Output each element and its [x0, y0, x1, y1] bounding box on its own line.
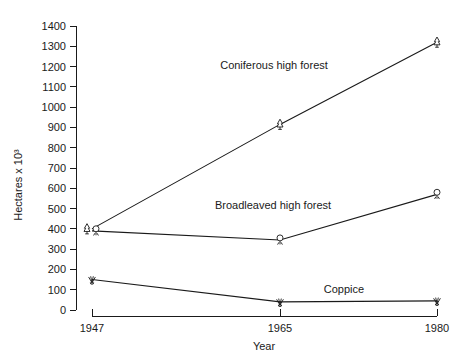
- x-tick-label: 1965: [268, 322, 292, 334]
- x-tick-label: 1947: [80, 322, 104, 334]
- annotation-coppice: Coppice: [324, 283, 364, 295]
- annotation-broadleaved: Broadleaved high forest: [215, 199, 331, 211]
- x-tick-label: 1980: [425, 322, 449, 334]
- y-tick-label: 1200: [42, 61, 66, 73]
- chart-background: [0, 0, 468, 357]
- forest-area-line-chart: 0 100 200 300 400 500 600 700 800 900 10…: [0, 0, 468, 357]
- y-tick-label: 0: [60, 304, 66, 316]
- y-tick-label: 200: [48, 263, 66, 275]
- x-axis-title: Year: [253, 340, 276, 352]
- y-tick-label: 800: [48, 142, 66, 154]
- y-tick-label: 100: [48, 284, 66, 296]
- y-tick-label: 900: [48, 121, 66, 133]
- y-tick-label: 500: [48, 203, 66, 215]
- y-tick-label: 1400: [42, 20, 66, 32]
- y-tick-label: 1000: [42, 101, 66, 113]
- y-tick-label: 400: [48, 223, 66, 235]
- y-tick-label: 1100: [42, 81, 66, 93]
- y-tick-label: 300: [48, 243, 66, 255]
- annotation-coniferous: Coniferous high forest: [220, 59, 328, 71]
- y-tick-label: 600: [48, 182, 66, 194]
- y-axis-title: Hectares x 10³: [12, 149, 24, 221]
- y-tick-label: 700: [48, 162, 66, 174]
- y-tick-label: 1300: [42, 40, 66, 52]
- chart-container: 0 100 200 300 400 500 600 700 800 900 10…: [0, 0, 468, 357]
